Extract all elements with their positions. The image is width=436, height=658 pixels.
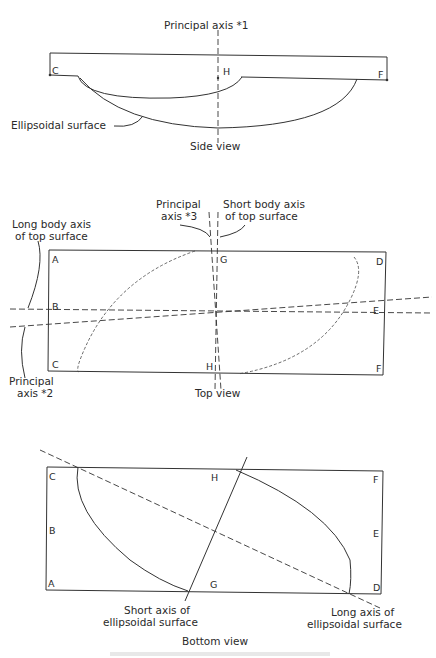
svg-text:C: C <box>49 471 56 482</box>
principal-axis-1-label: Principal axis *1 <box>164 19 248 31</box>
side-view: Principal axis *1 C H F Ellipsoidal surf… <box>11 19 388 152</box>
point-h: H <box>223 66 230 77</box>
svg-text:B: B <box>49 525 56 536</box>
svg-text:D: D <box>373 582 380 593</box>
point-c: C <box>52 65 59 76</box>
top-view-title: Top view <box>194 387 241 399</box>
bottom-rectangle <box>46 467 383 594</box>
svg-text:F: F <box>373 474 378 485</box>
bottom-view-title: Bottom view <box>182 635 248 647</box>
slab-outline <box>50 53 387 80</box>
svg-text:Principal: Principal <box>156 198 201 210</box>
principal-axis-2 <box>10 297 432 327</box>
ellipsoidal-surface-inner <box>78 76 242 98</box>
svg-text:axis *3: axis *3 <box>161 210 197 222</box>
svg-text:Long axis of: Long axis of <box>331 606 395 618</box>
svg-text:C: C <box>52 359 59 370</box>
svg-text:E: E <box>373 528 379 539</box>
svg-text:ellipsoidal surface: ellipsoidal surface <box>307 618 402 630</box>
svg-text:Principal: Principal <box>9 375 54 387</box>
ellipse-outline-right <box>236 470 351 594</box>
svg-text:Long body axis: Long body axis <box>12 218 91 230</box>
ellipsoidal-surface-label: Ellipsoidal surface <box>11 119 106 131</box>
diagram-canvas: Principal axis *1 C H F Ellipsoidal surf… <box>0 0 436 658</box>
ellipse-hidden-left <box>78 251 195 372</box>
svg-text:H: H <box>211 472 218 483</box>
ellipse-hidden-right <box>238 257 359 374</box>
short-body-axis <box>215 212 218 390</box>
svg-text:E: E <box>373 305 379 316</box>
cropped-caption <box>110 652 330 656</box>
svg-text:Short body axis: Short body axis <box>223 198 305 210</box>
surface-leader <box>114 116 143 126</box>
ellipse-outline-left <box>77 467 188 591</box>
point-f: F <box>378 69 383 80</box>
svg-text:B: B <box>52 301 59 312</box>
bottom-view: C H F B E A G D Short axis of ellipsoida… <box>40 450 402 647</box>
top-view: Principal axis *3 Short body axis of top… <box>9 198 432 399</box>
svg-text:of top surface: of top surface <box>225 210 298 222</box>
svg-text:F: F <box>376 363 381 374</box>
side-view-title: Side view <box>190 140 241 152</box>
svg-text:Short axis of: Short axis of <box>124 604 190 616</box>
svg-text:G: G <box>220 254 227 265</box>
svg-text:D: D <box>376 256 383 267</box>
svg-text:ellipsoidal surface: ellipsoidal surface <box>103 616 198 628</box>
svg-text:axis *2: axis *2 <box>17 387 53 399</box>
svg-text:A: A <box>48 578 55 589</box>
svg-text:of top surface: of top surface <box>15 230 88 242</box>
svg-text:G: G <box>210 579 217 590</box>
svg-text:H: H <box>206 361 213 372</box>
ellipsoidal-surface-outer <box>80 78 357 128</box>
svg-text:A: A <box>52 254 59 265</box>
